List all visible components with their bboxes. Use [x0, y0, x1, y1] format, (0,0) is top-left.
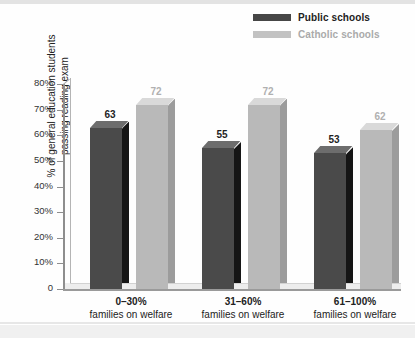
- chart-figure: Public schools Catholic schools % of gen…: [0, 4, 415, 322]
- bar-front-face: [248, 105, 280, 290]
- y-tick-label-80: 80%: [34, 77, 53, 88]
- x-category-range: 0–30%: [71, 295, 191, 308]
- y-tick-80: 80%: [57, 84, 63, 85]
- y-tick-40: 40%: [57, 187, 63, 188]
- y-tick-label-30: 30%: [34, 205, 53, 216]
- bar-front-face: [90, 128, 122, 289]
- y-tick-30: 30%: [57, 212, 63, 213]
- page-bottom-band: [0, 325, 415, 338]
- bar-public-schools-61-100[interactable]: 53: [314, 153, 346, 289]
- bar-front-face: [136, 105, 168, 290]
- bar-value-label: 55: [202, 129, 242, 140]
- y-tick-label-40: 40%: [34, 180, 53, 191]
- bar-catholic-schools-61-100[interactable]: 62: [360, 130, 392, 289]
- y-tick-50: 50%: [57, 161, 63, 162]
- legend-swatch-public-schools: [253, 14, 291, 21]
- y-tick-label-50: 50%: [34, 154, 53, 165]
- y-axis-back-line: [70, 78, 71, 283]
- y-tick-label-0: 0: [48, 282, 53, 293]
- y-tick-20: 20%: [57, 238, 63, 239]
- bar-top-face: [202, 141, 240, 148]
- y-tick-label-60: 60%: [34, 128, 53, 139]
- bar-top-face: [314, 146, 352, 153]
- bar-front-face: [360, 130, 392, 289]
- legend-label-public-schools: Public schools: [298, 12, 370, 23]
- bar-side-face: [234, 142, 241, 283]
- bar-public-schools-0-30[interactable]: 63: [90, 128, 122, 289]
- bar-side-face: [346, 147, 353, 283]
- y-tick-60: 60%: [57, 135, 63, 136]
- legend-swatch-catholic-schools: [253, 31, 291, 38]
- legend-label-catholic-schools: Catholic schools: [298, 29, 380, 40]
- bar-catholic-schools-0-30[interactable]: 72: [136, 105, 168, 290]
- bar-top-face: [90, 121, 128, 128]
- bar-value-label: 72: [136, 86, 176, 97]
- bar-front-face: [202, 148, 234, 289]
- bar-side-face: [122, 122, 129, 283]
- y-axis-line: [63, 84, 65, 289]
- bar-side-face: [280, 99, 287, 284]
- chart-legend: Public schools Catholic schools: [253, 10, 401, 44]
- plot-area: 80% 70% 60% 50% 40% 30% 20% 10% 0: [63, 84, 401, 289]
- y-tick-70: 70%: [57, 110, 63, 111]
- bar-top-face: [360, 123, 398, 130]
- bar-value-label: 62: [360, 111, 400, 122]
- x-category-range: 31–60%: [183, 295, 303, 308]
- y-tick-label-10: 10%: [34, 256, 53, 267]
- bar-side-face: [168, 99, 175, 284]
- bar-public-schools-31-60[interactable]: 55: [202, 148, 234, 289]
- x-category-range: 61–100%: [295, 295, 415, 308]
- bar-top-face: [136, 98, 174, 105]
- bar-top-face: [248, 98, 286, 105]
- bar-value-label: 63: [90, 109, 130, 120]
- x-category-label-0-30: 0–30% families on welfare: [71, 295, 191, 321]
- bar-value-label: 72: [248, 86, 288, 97]
- x-category-label-31-60: 31–60% families on welfare: [183, 295, 303, 321]
- x-category-sublabel: families on welfare: [71, 308, 191, 321]
- legend-item-catholic-schools: Catholic schools: [253, 27, 401, 42]
- bar-side-face: [392, 124, 399, 283]
- x-category-sublabel: families on welfare: [183, 308, 303, 321]
- page-bottom-rule: [0, 322, 415, 324]
- chart-baseline: [63, 289, 401, 291]
- x-category-sublabel: families on welfare: [295, 308, 415, 321]
- y-tick-label-20: 20%: [34, 231, 53, 242]
- legend-item-public-schools: Public schools: [253, 10, 401, 25]
- bar-front-face: [314, 153, 346, 289]
- bar-value-label: 53: [314, 134, 354, 145]
- bar-catholic-schools-31-60[interactable]: 72: [248, 105, 280, 290]
- x-category-label-61-100: 61–100% families on welfare: [295, 295, 415, 321]
- y-tick-10: 10%: [57, 263, 63, 264]
- y-tick-label-70: 70%: [34, 103, 53, 114]
